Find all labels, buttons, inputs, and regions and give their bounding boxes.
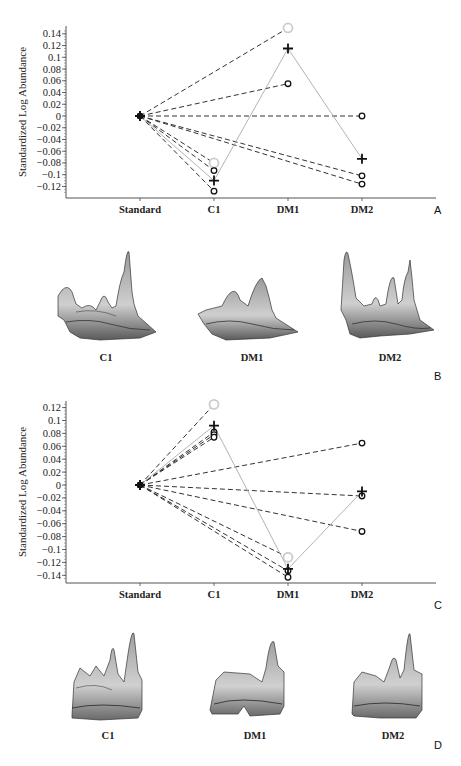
surface-plot-b-dm1: DM1 (198, 278, 298, 363)
circle-marker (211, 434, 217, 440)
y-tick-label: −0.14 (37, 570, 62, 581)
surface-plot-d-c1: C1 (72, 633, 142, 741)
series-line (140, 28, 288, 116)
y-tick-label: 0.02 (43, 99, 61, 110)
circle-marker (359, 181, 365, 187)
y-tick-label: −0.12 (37, 557, 61, 568)
x-category-label: DM2 (351, 589, 374, 600)
circle-marker (285, 574, 291, 580)
x-category-label: Standard (119, 204, 161, 215)
series-line (140, 485, 288, 577)
light-circle-marker (284, 553, 293, 562)
light-circle-marker (284, 23, 293, 32)
y-tick-label: 0.08 (43, 428, 61, 439)
y-tick-label: −0.06 (37, 146, 61, 157)
y-tick-label: −0.06 (37, 518, 61, 529)
surface-panel-b: C1 DM1 DM2 (0, 220, 461, 380)
y-tick-label: −0.08 (37, 157, 61, 168)
plus-marker (209, 421, 219, 431)
circle-marker (359, 440, 365, 446)
b-label-c1: C1 (100, 352, 113, 363)
circle-marker (211, 188, 217, 194)
x-category-label: DM1 (277, 589, 300, 600)
surface-plot-d-dm2: DM2 (352, 634, 422, 741)
y-tick-label: 0.02 (43, 467, 61, 478)
y-tick-label: 0.14 (43, 28, 62, 39)
series-line (140, 435, 214, 485)
circle-marker (211, 168, 217, 174)
x-category-label: Standard (119, 589, 161, 600)
y-tick-label: −0.08 (37, 531, 61, 542)
y-tick-label: −0.04 (37, 134, 62, 145)
chart-panel-a: 0.140.120.10.080.060.040.020−0.02−0.04−0… (0, 0, 461, 220)
y-tick-label: 0.04 (43, 454, 62, 465)
light-circle-marker (210, 400, 219, 409)
line-chart-c: 0.120.10.080.060.040.020−0.02−0.04−0.06−… (0, 385, 461, 610)
series-line (140, 116, 214, 191)
circle-marker (359, 113, 365, 119)
y-tick-label: 0.06 (43, 441, 61, 452)
x-category-label: C1 (208, 204, 221, 215)
series-line (140, 426, 362, 569)
circle-marker (359, 173, 365, 179)
surface-plot-d-dm1: DM1 (210, 642, 284, 741)
y-tick-label: 0.1 (48, 415, 61, 426)
y-tick-label: 0.08 (43, 64, 61, 75)
y-tick-label: 0 (56, 480, 61, 491)
circle-marker (285, 81, 291, 87)
surface-plots-b: C1 DM1 DM2 (0, 220, 461, 380)
b-label-dm1: DM1 (241, 352, 264, 363)
d-label-dm2: DM2 (382, 730, 405, 741)
series-line (140, 116, 214, 163)
y-tick-label: 0.06 (43, 75, 61, 86)
circle-marker (359, 529, 365, 535)
surface-plot-b-dm2: DM2 (341, 252, 434, 363)
d-label-dm1: DM1 (244, 730, 267, 741)
series-line (140, 485, 288, 557)
d-label-c1: C1 (102, 730, 115, 741)
series-line (140, 432, 214, 485)
y-tick-label: 0.12 (43, 402, 61, 413)
series-line (140, 116, 214, 171)
panel-label-d: D (434, 739, 442, 751)
y-tick-label: 0 (56, 111, 61, 122)
series-line (140, 437, 214, 485)
y-tick-label: 0.04 (43, 87, 62, 98)
surface-plot-b-c1: C1 (58, 251, 156, 363)
y-tick-label: −0.02 (37, 492, 61, 503)
series-line (140, 49, 362, 181)
y-tick-label: 0.12 (43, 40, 61, 51)
y-tick-label: −0.04 (37, 505, 62, 516)
x-category-label: C1 (208, 589, 221, 600)
panel-label-a: A (434, 204, 441, 216)
line-chart-a: 0.140.120.10.080.060.040.020−0.02−0.04−0… (0, 0, 461, 220)
plus-marker (357, 154, 367, 164)
b-label-dm2: DM2 (379, 352, 402, 363)
panel-label-b: B (434, 370, 441, 382)
x-category-label: DM2 (351, 204, 374, 215)
y-axis-title: Standardized Log Abundance (16, 427, 28, 557)
surface-panel-d: C1 DM1 DM2 (0, 610, 461, 766)
plus-marker (283, 43, 293, 53)
series-line (140, 485, 362, 531)
light-circle-marker (210, 158, 219, 167)
x-category-label: DM1 (277, 204, 300, 215)
series-line (140, 485, 288, 571)
series-line (140, 116, 362, 176)
y-tick-label: −0.12 (37, 181, 61, 192)
y-axis-title: Standardized Log Abundance (16, 47, 28, 177)
series-line (140, 116, 362, 184)
chart-panel-c: 0.120.10.080.060.040.020−0.02−0.04−0.06−… (0, 385, 461, 610)
y-tick-label: −0.1 (42, 544, 61, 555)
y-tick-label: 0.1 (48, 52, 61, 63)
surface-plots-d: C1 DM1 DM2 (0, 610, 461, 766)
series-line (140, 485, 362, 496)
y-tick-label: −0.1 (42, 169, 61, 180)
y-tick-label: −0.02 (37, 122, 61, 133)
